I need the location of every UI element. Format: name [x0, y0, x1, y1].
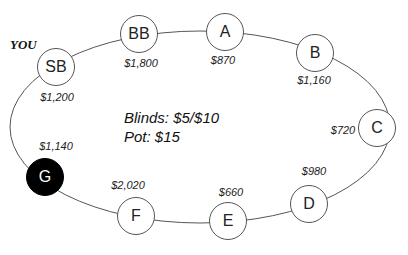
stack-amount: $1,160: [297, 74, 331, 86]
seat-c[interactable]: C: [358, 109, 396, 147]
stack-amount: $1,200: [40, 91, 74, 103]
seat-e[interactable]: E: [209, 202, 247, 240]
blinds-text: Blinds: $5/$10: [124, 108, 219, 127]
stack-amount: $1,140: [39, 140, 73, 152]
seat-b[interactable]: B: [296, 34, 334, 72]
stack-amount: $660: [219, 186, 243, 198]
seat-f[interactable]: F: [117, 197, 155, 235]
pot-text: Pot: $15: [124, 127, 219, 146]
seat-label: F: [131, 207, 141, 225]
table-info: Blinds: $5/$10 Pot: $15: [124, 108, 219, 146]
seat-bb[interactable]: BB: [120, 15, 158, 53]
seat-label: G: [39, 168, 51, 186]
seat-label: BB: [128, 25, 149, 43]
seat-label: B: [310, 44, 321, 62]
stack-amount: $870: [211, 54, 235, 66]
stack-amount: $720: [331, 124, 355, 136]
seat-g[interactable]: G: [26, 158, 64, 196]
seat-label: D: [303, 195, 315, 213]
seat-label: A: [220, 23, 231, 41]
stack-amount: $1,800: [124, 57, 158, 69]
seat-label: SB: [45, 58, 66, 76]
seat-label: C: [371, 119, 383, 137]
stack-amount: $2,020: [111, 179, 145, 191]
seat-d[interactable]: D: [290, 185, 328, 223]
seat-a[interactable]: A: [206, 13, 244, 51]
you-label: YOU: [10, 37, 37, 53]
stack-amount: $980: [302, 165, 326, 177]
seat-label: E: [223, 212, 234, 230]
seat-sb[interactable]: SB: [37, 48, 75, 86]
